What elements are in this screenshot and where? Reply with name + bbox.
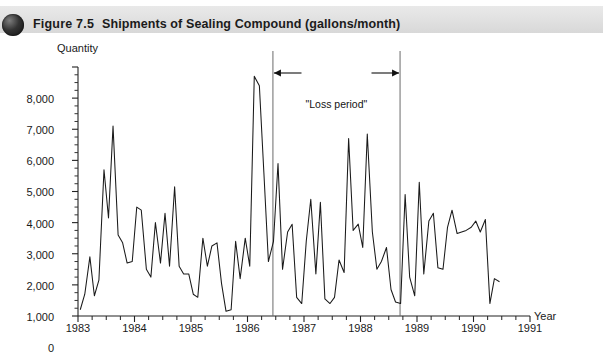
data-series-line — [80, 76, 499, 311]
y-tick-label: 7,000 — [8, 124, 54, 136]
x-tick-label: 1984 — [113, 322, 157, 334]
arrowhead-left-icon — [274, 69, 281, 76]
figure-number-label: Figure 7.5 — [33, 17, 94, 31]
x-tick-label: 1990 — [452, 322, 496, 334]
x-tick-label: 1983 — [56, 322, 100, 334]
x-tick-label: 1985 — [169, 322, 213, 334]
x-tick-label: 1986 — [226, 322, 270, 334]
y-tick-label: 1,000 — [8, 311, 54, 323]
x-tick-label: 1991 — [508, 322, 552, 334]
y-tick-label: 4,000 — [8, 218, 54, 230]
y-tick-label: 2,000 — [8, 280, 54, 292]
y-tick-label: 8,000 — [8, 93, 54, 105]
arrowhead-right-icon — [392, 69, 399, 76]
chart-plot-area: Quantity Year 01,0002,0003,0004,0005,000… — [0, 33, 603, 352]
x-tick-label: 1987 — [282, 322, 326, 334]
figure-title: Shipments of Sealing Compound (gallons/m… — [102, 17, 400, 31]
figure-header-banner: Figure 7.5 Shipments of Sealing Compound… — [0, 6, 603, 33]
x-tick-label: 1988 — [339, 322, 383, 334]
y-tick-label: 5,000 — [8, 186, 54, 198]
y-tick-label: 6,000 — [8, 155, 54, 167]
chart-svg — [0, 33, 603, 352]
y-tick-label: 0 — [8, 342, 54, 352]
loss-period-annotation-label: "Loss period" — [305, 98, 367, 110]
x-tick-label: 1989 — [395, 322, 439, 334]
y-tick-label: 3,000 — [8, 249, 54, 261]
